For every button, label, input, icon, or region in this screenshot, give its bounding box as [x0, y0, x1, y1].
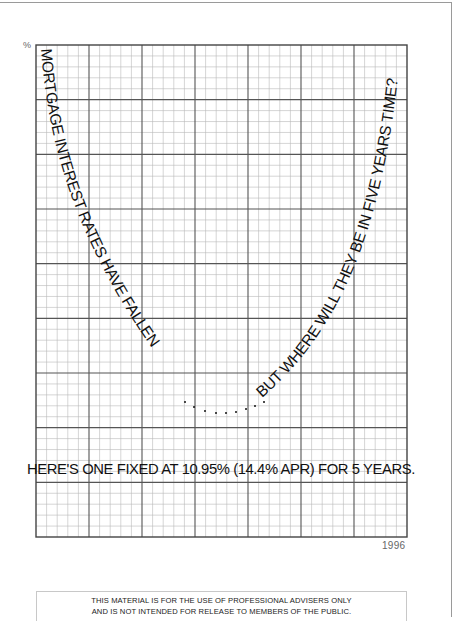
disclaimer-line-1: THIS MATERIAL IS FOR THE USE OF PROFESSI…	[37, 595, 406, 606]
year-label: 1996	[382, 540, 405, 551]
headline-offer: HERE'S ONE FIXED AT 10.95% (14.4% APR) F…	[27, 461, 415, 477]
curve-text-falling: MORTGAGE INTEREST RATES HAVE FALLEN	[38, 48, 163, 350]
disclaimer-line-2: AND IS NOT INTENDED FOR RELEASE TO MEMBE…	[37, 606, 406, 617]
y-axis-unit-label: %	[23, 40, 31, 50]
dotted-trough	[184, 401, 265, 414]
disclaimer-box: THIS MATERIAL IS FOR THE USE OF PROFESSI…	[36, 591, 407, 621]
curve-text-rising: BUT WHERE WILL THEY BE IN FIVE YEARS TIM…	[253, 77, 401, 401]
